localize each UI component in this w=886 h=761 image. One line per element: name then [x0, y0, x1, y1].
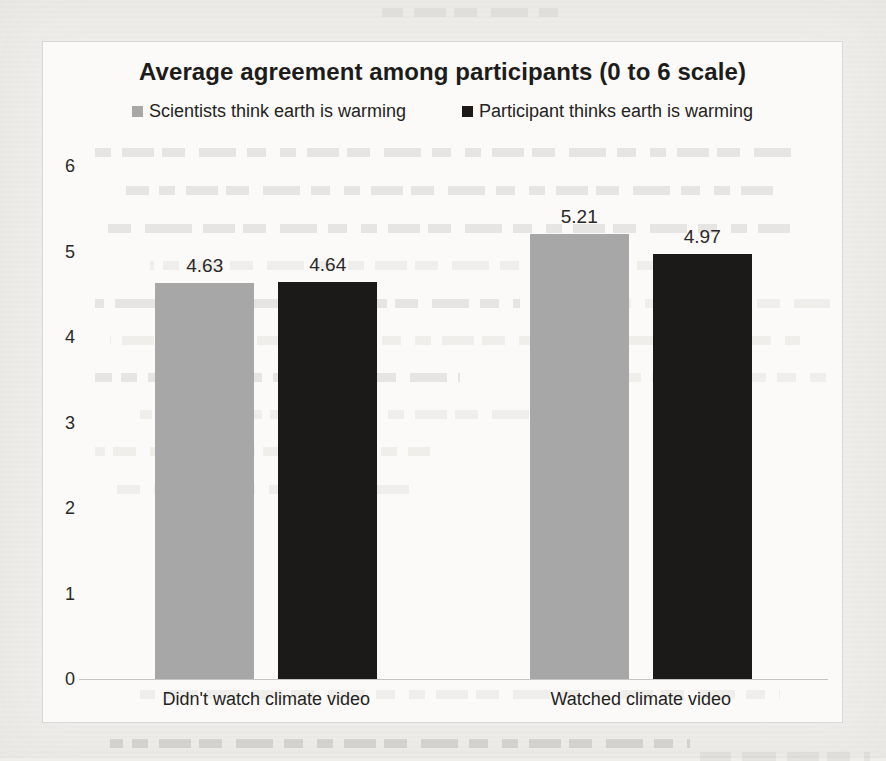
legend-item-participant: Participant thinks earth is warming	[462, 101, 753, 122]
bleed-through-text	[380, 8, 570, 17]
y-tick-label: 0	[51, 668, 75, 690]
bar-value-label: 4.97	[684, 226, 721, 248]
legend-swatch-black-icon	[462, 106, 473, 117]
legend-label-participant: Participant thinks earth is warming	[479, 101, 753, 122]
bleed-through-text	[95, 148, 800, 157]
x-axis-line	[79, 679, 828, 680]
legend-swatch-gray-icon	[132, 106, 143, 117]
y-tick-label: 4	[51, 326, 75, 348]
bar-participant-group2	[653, 254, 752, 679]
bleed-through-text	[110, 739, 690, 748]
y-tick-label: 1	[51, 583, 75, 605]
x-axis-category-label: Watched climate video	[551, 689, 731, 710]
plot-area: 4.634.64Didn't watch climate video5.214.…	[79, 166, 828, 679]
bar-scientists-group1	[155, 283, 254, 679]
bar-scientists-group2	[530, 234, 629, 679]
bar-chart: Average agreement among participants (0 …	[42, 41, 843, 723]
bar-participant-group1	[278, 282, 377, 679]
bar-value-label: 4.63	[186, 255, 223, 277]
y-tick-label: 5	[51, 241, 75, 263]
y-tick-label: 2	[51, 497, 75, 519]
chart-title: Average agreement among participants (0 …	[43, 58, 842, 86]
y-tick-label: 6	[51, 155, 75, 177]
y-axis: 6543210	[51, 42, 75, 722]
bleed-through-text	[700, 752, 870, 761]
x-axis-category-label: Didn't watch climate video	[162, 689, 370, 710]
legend-label-scientists: Scientists think earth is warming	[149, 101, 406, 122]
chart-legend: Scientists think earth is warming Partic…	[43, 101, 842, 122]
bar-value-label: 5.21	[561, 206, 598, 228]
legend-item-scientists: Scientists think earth is warming	[132, 101, 406, 122]
y-tick-label: 3	[51, 412, 75, 434]
bar-value-label: 4.64	[309, 254, 346, 276]
